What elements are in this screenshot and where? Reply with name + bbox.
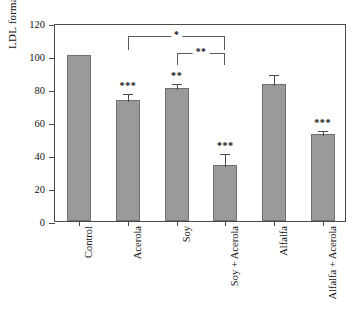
y-axis-title: LDL formation (%) [6,0,22,74]
bar [116,100,140,221]
y-axis-tick-label: 20 [35,183,46,197]
x-axis-category-label: Soy [181,226,193,242]
x-axis-category-label: Alfalfa + Acerola [327,226,339,300]
significance-bracket: * [128,36,225,50]
y-axis-tick-label: 120 [29,18,45,32]
x-axis-tick [323,221,324,226]
bar [262,84,286,221]
y-axis-tick: 120 [49,25,55,26]
bar [213,165,237,221]
y-axis-tick-label: 60 [35,117,46,131]
x-axis-category-label: Control [83,226,95,258]
error-bar-cap [172,84,182,85]
plot-area: 020406080100120************** [54,24,346,222]
error-bar-cap [318,131,328,132]
x-axis-category-label: Soy + Acerola [229,226,241,286]
significance-bracket-label: ** [193,47,210,57]
significance-marker: *** [120,81,137,91]
y-axis-tick-label: 0 [40,216,45,230]
y-axis-tick-label: 40 [35,150,46,164]
x-axis-tick [79,221,80,226]
bar [311,134,335,221]
error-bar [274,75,275,86]
bar [165,88,189,221]
significance-bracket: ** [177,53,226,65]
x-axis-category-label: Acerola [132,226,144,259]
y-axis-tick: 20 [49,190,55,191]
y-axis-tick: 40 [49,157,55,158]
y-axis-tick-label: 80 [35,84,46,98]
error-bar-cap [123,94,133,95]
x-axis-category-label: Alfalfa [278,226,290,256]
chart-figure: LDL formation (%) 020406080100120*******… [0,0,359,317]
y-axis-tick: 100 [49,58,55,59]
bar [67,55,91,221]
x-axis-tick [274,221,275,226]
y-axis-tick: 60 [49,124,55,125]
significance-bracket-label: * [171,30,182,40]
x-axis-tick [225,221,226,226]
error-bar [225,154,226,167]
significance-marker: *** [314,118,331,128]
y-axis-tick: 80 [49,91,55,92]
x-axis-tick [177,221,178,226]
y-axis-tick: 0 [49,223,55,224]
significance-marker: *** [217,141,234,151]
x-axis-tick [128,221,129,226]
y-axis-tick-label: 100 [29,51,45,65]
significance-marker: ** [171,71,182,81]
error-bar-cap [269,75,279,76]
error-bar-cap [220,154,230,155]
error-bar [128,94,129,101]
